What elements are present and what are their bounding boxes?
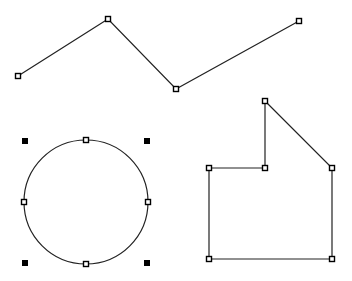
selection-handle[interactable]: [144, 260, 150, 266]
vertex-handle[interactable]: [106, 17, 111, 22]
edge-handle[interactable]: [146, 200, 151, 205]
polyline-path[interactable]: [18, 19, 299, 89]
circle-shape[interactable]: [22, 138, 151, 267]
vertex-handle[interactable]: [16, 74, 21, 79]
vertex-handle[interactable]: [263, 166, 268, 171]
selection-handle[interactable]: [144, 138, 150, 144]
vertex-handle[interactable]: [174, 87, 179, 92]
drawing-canvas[interactable]: [0, 0, 352, 281]
edge-handle[interactable]: [84, 138, 89, 143]
vertex-handle[interactable]: [263, 99, 268, 104]
selection-handle[interactable]: [22, 260, 28, 266]
selection-handle[interactable]: [22, 138, 28, 144]
vertex-handle[interactable]: [207, 166, 212, 171]
vertex-handle[interactable]: [207, 257, 212, 262]
polyline-shape[interactable]: [16, 17, 302, 92]
polygon-shape[interactable]: [207, 99, 335, 262]
vertex-handle[interactable]: [297, 19, 302, 24]
vertex-handle[interactable]: [330, 257, 335, 262]
vertex-handle[interactable]: [330, 166, 335, 171]
edge-handle[interactable]: [84, 262, 89, 267]
circle-path[interactable]: [24, 140, 148, 264]
polygon-path[interactable]: [209, 101, 332, 259]
edge-handle[interactable]: [22, 200, 27, 205]
